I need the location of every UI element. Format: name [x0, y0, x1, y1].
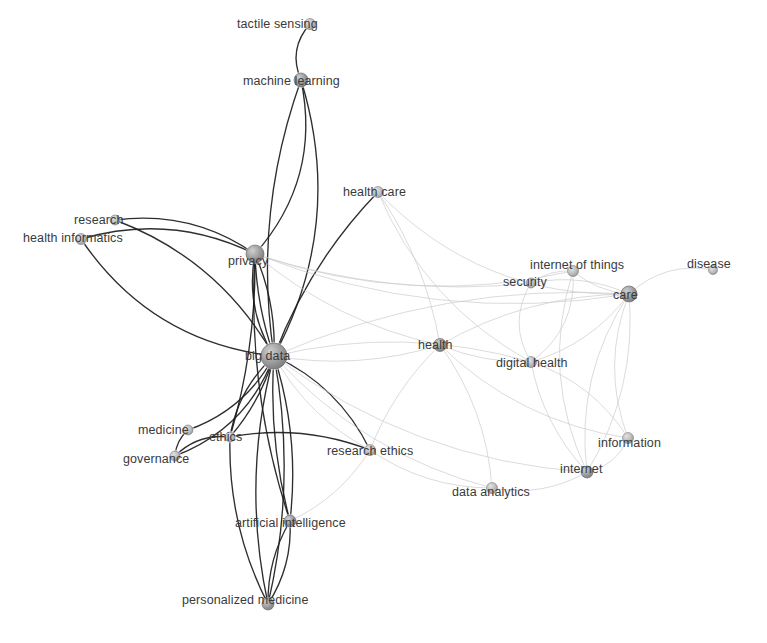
node-circle[interactable]: [183, 425, 193, 435]
node-circle[interactable]: [623, 433, 634, 444]
node-circle[interactable]: [621, 286, 637, 302]
graph-node-health[interactable]: [432, 337, 447, 352]
graph-node-internet[interactable]: [580, 465, 594, 479]
node-circle[interactable]: [434, 339, 447, 352]
graph-node-privacy[interactable]: [245, 244, 265, 264]
node-circle[interactable]: [76, 234, 87, 245]
node-circle[interactable]: [246, 245, 264, 263]
graph-edge: [296, 24, 310, 80]
graph-edge: [440, 345, 492, 488]
graph-node-care[interactable]: [620, 285, 638, 303]
graph-node-governance[interactable]: [169, 450, 181, 462]
graph-edge: [370, 345, 440, 450]
graph-node-research[interactable]: [109, 214, 121, 226]
graph-node-data_analytics[interactable]: [485, 481, 498, 494]
node-circle[interactable]: [284, 515, 296, 527]
node-circle[interactable]: [581, 466, 593, 478]
graph-edge: [587, 438, 628, 472]
graph-edge: [629, 268, 713, 294]
graph-edge: [492, 472, 587, 491]
graph-edge: [81, 239, 274, 356]
node-circle[interactable]: [365, 445, 376, 456]
graph-edge: [378, 192, 440, 345]
node-circle[interactable]: [110, 215, 120, 225]
graph-edge: [115, 218, 255, 254]
graph-node-medicine[interactable]: [182, 424, 194, 436]
graph-node-health_informatics[interactable]: [74, 232, 87, 245]
graph-edge: [370, 450, 492, 488]
graph-edge: [274, 345, 440, 361]
graph-edge: [531, 294, 629, 362]
graph-edge: [255, 80, 306, 254]
graph-edge: [230, 437, 268, 604]
node-circle[interactable]: [170, 451, 180, 461]
graph-edge: [519, 283, 531, 362]
graph-node-security[interactable]: [525, 277, 537, 289]
graph-node-tactile_sensing[interactable]: [303, 17, 316, 30]
node-circle[interactable]: [487, 483, 498, 494]
graph-edge: [274, 356, 587, 472]
graph-edge: [585, 294, 629, 472]
graph-node-personalized_medicine[interactable]: [261, 597, 275, 611]
graph-node-digital_health[interactable]: [524, 355, 537, 368]
node-circle[interactable]: [294, 73, 308, 87]
graph-edge: [255, 254, 531, 287]
graph-edge: [531, 271, 573, 362]
graph-edge: [587, 294, 630, 472]
graph-edge: [531, 362, 628, 438]
graph-edge: [531, 362, 587, 472]
node-circle[interactable]: [373, 187, 384, 198]
graph-edge: [274, 342, 531, 362]
graph-node-disease[interactable]: [707, 264, 718, 275]
node-circle[interactable]: [261, 343, 287, 369]
graph-node-ethics[interactable]: [224, 431, 236, 443]
graph-node-big_data[interactable]: [260, 342, 288, 370]
node-circle[interactable]: [568, 266, 579, 277]
node-circle[interactable]: [526, 278, 536, 288]
network-graph-canvas: tactile sensingmachine learninghealth ca…: [0, 0, 767, 643]
graph-edge: [81, 229, 255, 254]
node-circle[interactable]: [526, 357, 537, 368]
graph-edge: [255, 254, 440, 345]
graph-edge: [440, 294, 629, 345]
node-circle[interactable]: [225, 432, 235, 442]
node-circle[interactable]: [305, 19, 316, 30]
graph-node-artificial_intelligence[interactable]: [283, 514, 297, 528]
graph-edge: [268, 356, 284, 604]
graph-edge: [230, 432, 370, 450]
graph-node-research_ethics[interactable]: [363, 443, 376, 456]
node-circle[interactable]: [262, 598, 274, 610]
graph-node-health_care[interactable]: [371, 185, 384, 198]
graph-node-internet_of_things[interactable]: [566, 264, 579, 277]
node-circle[interactable]: [709, 266, 718, 275]
graph-node-machine_learning[interactable]: [293, 72, 309, 88]
graph-edge: [290, 450, 370, 521]
graph-edge: [440, 345, 531, 362]
graph-node-information[interactable]: [621, 431, 634, 444]
edge-layer: [81, 24, 713, 604]
network-graph-svg: [0, 0, 767, 643]
graph-edge: [378, 192, 629, 294]
